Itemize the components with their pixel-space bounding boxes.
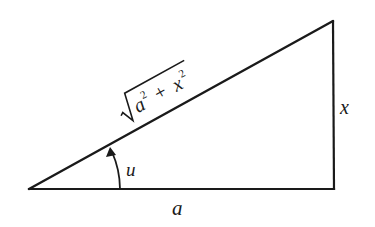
angle-label: u	[126, 159, 136, 180]
hypotenuse-label: a 2 + x 2	[112, 60, 197, 124]
angle-arc	[112, 152, 120, 189]
hypotenuse-operator: +	[150, 80, 171, 105]
height-label: x	[339, 96, 349, 118]
height-side	[333, 21, 334, 189]
right-triangle-diagram: u a x a 2 + x 2	[0, 0, 375, 227]
hypotenuse-side	[29, 21, 333, 189]
base-label: a	[172, 196, 183, 220]
angle-arrowhead-icon	[106, 147, 116, 157]
